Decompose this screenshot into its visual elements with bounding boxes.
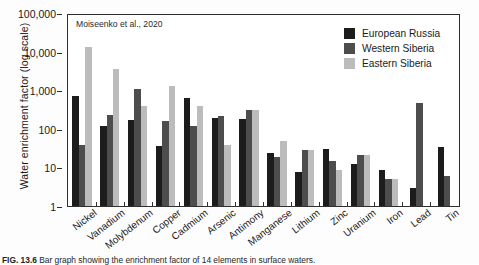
y-tick-mark (57, 168, 62, 169)
x-tick-mark (235, 202, 236, 206)
y-tick-label: 10,000 (24, 47, 56, 59)
y-tick-mark (57, 207, 62, 208)
y-tick-label: 1,000 (30, 85, 56, 97)
legend-label: European Russia (362, 27, 440, 41)
x-tick-label: Iron (385, 207, 405, 226)
x-tick-mark (207, 202, 208, 206)
legend-label: Western Siberia (362, 42, 434, 56)
y-tick-label: 1 (50, 201, 56, 213)
legend-swatch-icon (344, 43, 355, 54)
bar-group (179, 15, 207, 206)
x-tick-mark (347, 202, 348, 206)
bar-group (319, 15, 347, 206)
bar (336, 170, 342, 206)
x-tick-mark (319, 202, 320, 206)
x-tick-label: Lead (409, 207, 433, 229)
bar-group (68, 15, 96, 206)
bar-group-bars (68, 15, 96, 206)
bar (252, 110, 258, 206)
x-tick-label: Tin (443, 207, 460, 224)
x-tick-mark (374, 202, 375, 206)
y-tick-mark (57, 14, 62, 15)
bar-group-bars (319, 15, 347, 206)
y-tick-mark (57, 53, 62, 54)
bar-group-bars (124, 15, 152, 206)
y-tick-mark (57, 91, 62, 92)
bar-group (291, 15, 319, 206)
bar-group (235, 15, 263, 206)
bar-group (96, 15, 124, 206)
bar-group (124, 15, 152, 206)
legend-item[interactable]: European Russia (344, 27, 440, 41)
bar-group-bars (291, 15, 319, 206)
bar-group-bars (179, 15, 207, 206)
y-axis-tick-labels: 100,00010,0001,000100101 (14, 0, 62, 264)
bar (85, 47, 91, 206)
bar (169, 86, 175, 206)
x-tick-mark (96, 202, 97, 206)
bar (308, 150, 314, 206)
bar-group-bars (207, 15, 235, 206)
bar (197, 106, 203, 206)
bar-group-bars (235, 15, 263, 206)
legend-swatch-icon (344, 58, 355, 69)
legend-item[interactable]: Eastern Siberia (344, 57, 440, 71)
x-tick-mark (152, 202, 153, 206)
bar (280, 141, 286, 206)
bar-group (263, 15, 291, 206)
x-tick-mark (263, 202, 264, 206)
y-tick-label: 100 (38, 124, 56, 136)
bar-group (207, 15, 235, 206)
caption-text: Bar graph showing the enrichment factor … (39, 255, 315, 265)
bar (416, 103, 422, 206)
bar-group-bars (96, 15, 124, 206)
bar-group (152, 15, 180, 206)
x-tick-mark (291, 202, 292, 206)
x-tick-mark (430, 202, 431, 206)
bar (113, 69, 119, 206)
x-tick-mark (124, 202, 125, 206)
figure-caption: FIG. 13.6 Bar graph showing the enrichme… (2, 255, 479, 265)
legend: European RussiaWestern SiberiaEastern Si… (344, 27, 440, 72)
legend-label: Eastern Siberia (362, 57, 432, 71)
x-tick-mark (402, 202, 403, 206)
x-axis-tick-labels: NickelVanadiumMolybdenumCopperCadmiumArs… (67, 207, 460, 257)
x-tick-label: Zinc (328, 207, 350, 227)
bar-group-bars (152, 15, 180, 206)
x-tick-mark (179, 202, 180, 206)
bar-group-bars (263, 15, 291, 206)
y-tick-label: 100,000 (18, 8, 56, 20)
bar (364, 155, 370, 206)
bar (392, 179, 398, 206)
caption-figure-number: FIG. 13.6 (2, 255, 37, 265)
legend-item[interactable]: Western Siberia (344, 42, 440, 56)
bar (444, 176, 450, 206)
plot-area: Moiseenko et al., 2020 European RussiaWe… (67, 14, 460, 207)
y-tick-mark (57, 130, 62, 131)
y-tick-label: 10 (44, 162, 56, 174)
legend-swatch-icon (344, 28, 355, 39)
x-tick-label: Lithium (289, 207, 321, 236)
bar (224, 145, 230, 206)
bar (141, 106, 147, 206)
